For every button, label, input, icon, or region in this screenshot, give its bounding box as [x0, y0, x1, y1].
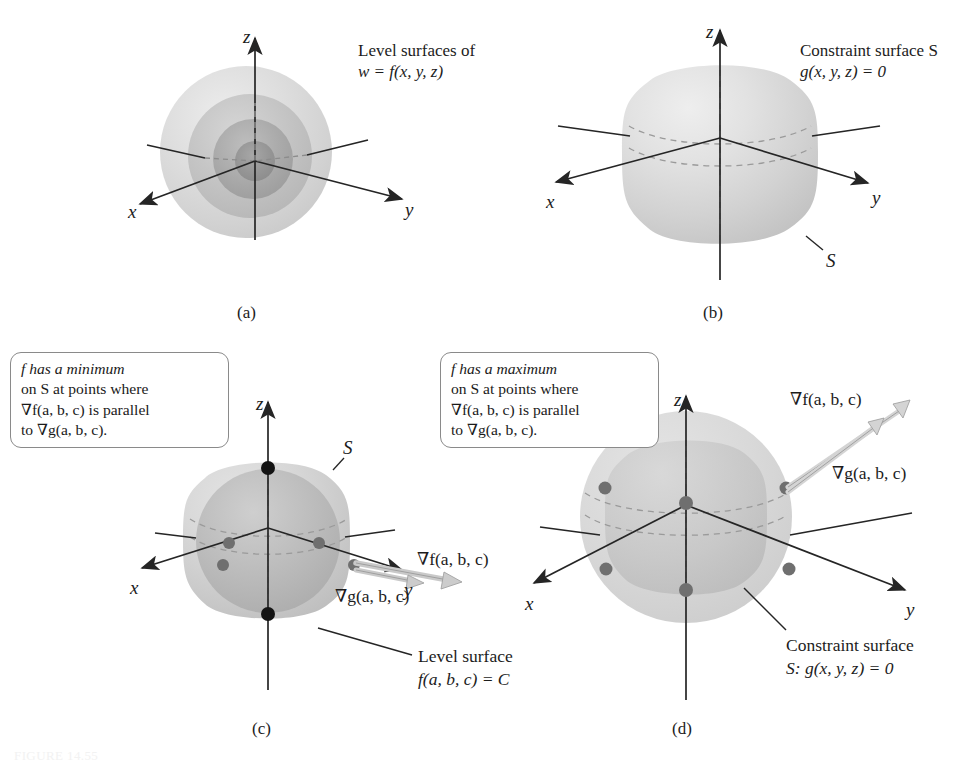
axis-y-c: [268, 528, 402, 570]
callout-d-line4: to ∇g(a, b, c).: [451, 420, 649, 440]
constraint-surface-c: [183, 463, 350, 619]
axis-label-x-d: x: [525, 592, 533, 616]
gradient-f-label-d: ∇f(a, b, c): [790, 388, 862, 411]
panel-tag-b: (b): [703, 302, 723, 324]
axis-label-x-c: x: [130, 576, 138, 600]
level-sphere-c: [196, 469, 340, 613]
axis-y-b: [720, 138, 868, 183]
note-b-line1: Constraint surface S: [800, 40, 938, 62]
tangency-dot-d-3: [600, 563, 613, 576]
constraint-surface-label-d-line2: S: g(x, y, z) = 0: [786, 657, 894, 680]
axis-label-y-d: y: [906, 598, 914, 622]
surface-label-c: S: [343, 436, 353, 460]
axis-label-y-a: y: [405, 198, 413, 222]
tangency-dot-d-4: [783, 563, 796, 576]
gradient-g-label-c: ∇g(a, b, c): [335, 585, 409, 608]
axis-x-c: [142, 528, 268, 568]
panel-tag-d: (d): [672, 718, 692, 740]
callout-c-line2: on S at points where: [21, 379, 219, 399]
tangency-dot-d-top: [679, 496, 693, 510]
note-a-line1: Level surfaces of: [358, 40, 475, 62]
axis-x-d: [534, 505, 686, 583]
panel-tag-c: (c): [252, 718, 271, 740]
axis-label-z-d: z: [674, 388, 681, 412]
surface-label-b: S: [826, 249, 836, 273]
note-a-line2: w = f(x, y, z): [358, 61, 443, 83]
callout-d: f has a maximum on S at points where ∇f(…: [440, 352, 659, 448]
tangency-dot-d-1: [599, 482, 612, 495]
axis-label-y-b: y: [872, 186, 880, 210]
callout-c-line4: to ∇g(a, b, c).: [21, 420, 219, 440]
axis-x-a: [140, 161, 255, 204]
callout-d-line2: on S at points where: [451, 379, 649, 399]
gradient-f-label-c: ∇f(a, b, c): [417, 548, 489, 571]
leader-constraint-surface-d: [744, 588, 786, 630]
leader-level-surface-c: [318, 628, 412, 655]
level-surface-label-c-line2: f(a, b, c) = C: [418, 668, 510, 691]
axis-label-z-b: z: [706, 20, 713, 44]
level-surface-label-c-line1: Level surface: [418, 645, 513, 668]
note-b-line2: g(x, y, z) = 0: [800, 61, 886, 83]
figure-caption: FIGURE 14.55: [14, 748, 98, 764]
axis-label-x-a: x: [128, 200, 136, 224]
level-spheres-a: [160, 66, 332, 238]
callout-d-line3: ∇f(a, b, c) is parallel: [451, 400, 649, 420]
constraint-surface-b: [622, 65, 818, 244]
leader-S-b: [806, 236, 823, 250]
tangency-dot-d-bottom: [679, 583, 693, 597]
tangency-dot-c-4: [348, 559, 360, 571]
callout-c-line1: f has a minimum: [21, 359, 219, 379]
axis-label-x-b: x: [546, 190, 554, 214]
axis-x-b: [556, 138, 720, 182]
panel-tag-a: (a): [237, 302, 256, 324]
tangency-dot-d-2: [780, 482, 793, 495]
tangency-dot-c-3: [217, 559, 229, 571]
axis-label-z-c: z: [256, 392, 263, 416]
tangency-dot-c-1: [223, 537, 235, 549]
axis-y-d: [686, 505, 905, 590]
constraint-surface-d: [605, 441, 767, 595]
tangency-dot-top-c: [261, 461, 275, 475]
callout-c-line3: ∇f(a, b, c) is parallel: [21, 400, 219, 420]
axis-label-z-a: z: [243, 25, 250, 49]
tangency-dot-bottom-c: [261, 607, 275, 621]
callout-d-line1: f has a maximum: [451, 359, 649, 379]
callout-c: f has a minimum on S at points where ∇f(…: [10, 352, 229, 448]
gradient-g-label-d: ∇g(a, b, c): [832, 462, 906, 485]
constraint-surface-label-d-line1: Constraint surface: [786, 634, 914, 657]
axis-y-a: [255, 161, 402, 199]
tangency-dot-c-2: [313, 537, 325, 549]
